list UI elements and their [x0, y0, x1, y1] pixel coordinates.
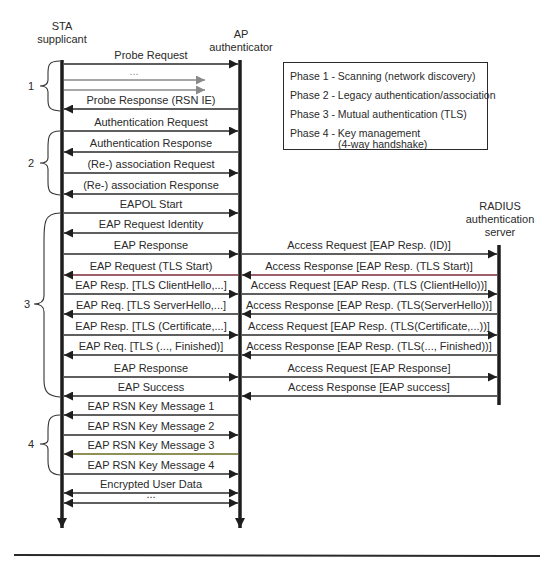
sta-ap-label-12: EAP Resp. [TLS ClientHello,...]: [62, 279, 240, 292]
sta-ap-label-5: Authentication Response: [62, 137, 240, 150]
sta-ap-label-1: ...: [45, 65, 223, 78]
ap-radius-label-1: Access Response [EAP Resp. (TLS Start)]: [241, 260, 497, 273]
phase-number-2: 2: [28, 157, 34, 169]
ap-radius-label-3: Access Response [EAP Resp. (TLS(ServerHe…: [241, 299, 497, 312]
sta-ap-label-17: EAP Success: [62, 381, 240, 394]
caption-divider: [14, 555, 540, 556]
sta-ap-label-19: EAP RSN Key Message 2: [62, 420, 240, 433]
sta-ap-label-6: (Re-) association Request: [62, 158, 240, 171]
sta-ap-label-4: Authentication Request: [62, 116, 240, 129]
brace-phase-4: [40, 415, 60, 475]
sta-ap-label-16: EAP Response: [62, 362, 240, 375]
sta-ap-label-0: Probe Request: [62, 49, 240, 62]
ap-radius-label-0: Access Request [EAP Resp. (ID)]: [241, 239, 497, 252]
ap-radius-label-6: Access Request [EAP Response]: [241, 362, 497, 375]
sta-ap-label-3: Probe Response (RSN IE): [62, 94, 240, 107]
ap-radius-label-7: Access Response [EAP success]: [241, 381, 497, 394]
sta-ap-label-13: EAP Req. [TLS ServerHello,...]: [62, 299, 240, 312]
sta-ap-label-11: EAP Request (TLS Start): [62, 260, 240, 273]
sta-ap-label-21: EAP RSN Key Message 4: [62, 459, 240, 472]
phase-number-4: 4: [28, 438, 34, 450]
sta-ap-label-8: EAPOL Start: [62, 198, 240, 211]
phase-braces: [34, 61, 60, 475]
sta-ap-label-18: EAP RSN Key Message 1: [62, 400, 240, 413]
sta-ap-label-14: EAP Resp. [TLS (Certificate,...]: [62, 320, 240, 333]
ap-radius-label-4: Access Request [EAP Resp. (TLS(Certifica…: [241, 320, 497, 333]
sta-ap-label-23: ...: [62, 488, 240, 501]
ap-radius-label-5: Access Response [EAP Resp. (TLS(..., Fin…: [241, 340, 497, 353]
phase-number-1: 1: [28, 80, 34, 92]
sta-ap-label-7: (Re-) association Response: [62, 179, 240, 192]
brace-phase-3: [34, 213, 60, 397]
sta-ap-label-15: EAP Req. [TLS (..., Finished)]: [62, 340, 240, 353]
sta-ap-label-10: EAP Response: [62, 239, 240, 252]
sta-ap-label-20: EAP RSN Key Message 3: [62, 439, 240, 452]
phase-number-3: 3: [24, 298, 30, 310]
brace-phase-2: [40, 131, 60, 195]
sta-ap-label-9: EAP Request Identity: [62, 218, 240, 231]
ap-radius-label-2: Access Request [EAP Resp. (TLS (ClientHe…: [241, 279, 497, 292]
